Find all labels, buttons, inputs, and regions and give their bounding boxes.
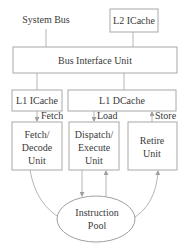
bus-interface-unit-label: Bus Interface Unit [58,55,132,66]
fetch-decode-line-2: Decode [22,142,53,153]
dispatch-execute-unit-box: Dispatch/ Execute Unit [69,122,119,170]
dispatch-execute-line-3: Unit [85,155,103,166]
retire-line-1: Retire [140,135,165,146]
instruction-pool-ellipse: Instruction Pool [57,196,135,242]
l2-icache-label: L2 ICache [113,15,155,26]
l1-icache-box: L1 ICache [12,90,62,111]
pool-to-retire-arrow [132,171,158,219]
retire-unit-box: Retire Unit [128,122,177,170]
fetch-decode-line-3: Unit [28,155,46,166]
bus-interface-unit-box: Bus Interface Unit [13,47,177,73]
dispatch-execute-line-2: Execute [78,142,111,153]
retire-line-2: Unit [143,148,161,159]
instruction-pool-line-2: Pool [88,220,107,231]
l1-dcache-label: L1 DCache [99,95,145,106]
load-edge-label: Load [97,110,118,121]
fetch-decode-line-1: Fetch/ [25,129,50,140]
instruction-pool-line-1: Instruction [75,207,118,218]
store-edge-label: Store [155,110,177,121]
dispatch-execute-line-1: Dispatch/ [75,129,114,140]
fetch-to-pool-arrow [30,170,62,219]
diagram-canvas: System Bus L2 ICache Bus Interface Unit … [0,0,187,252]
fetch-decode-unit-box: Fetch/ Decode Unit [12,122,62,170]
l1-dcache-box: L1 DCache [68,90,176,111]
system-bus-label: System Bus [22,14,70,25]
l1-icache-label: L1 ICache [16,95,58,106]
fetch-edge-label: Fetch [41,110,63,121]
l2-icache-box: L2 ICache [110,9,158,32]
